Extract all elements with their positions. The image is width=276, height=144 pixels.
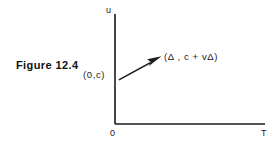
x-axis-label: T [261, 128, 267, 138]
y-axis-label: u [106, 5, 111, 15]
figure-root: Figure 12.4 u 0 T (0,c) (Δ , c + vΔ) [0, 0, 276, 144]
arrow-head [147, 56, 161, 66]
plot-diagram: u 0 T (0,c) (Δ , c + vΔ) [0, 0, 276, 144]
displacement-arrow [119, 56, 162, 80]
origin-label: 0 [110, 128, 115, 138]
arrow-shaft [119, 62, 151, 81]
start-point-label: (0,c) [83, 69, 105, 80]
end-point-label: (Δ , c + vΔ) [164, 51, 218, 62]
